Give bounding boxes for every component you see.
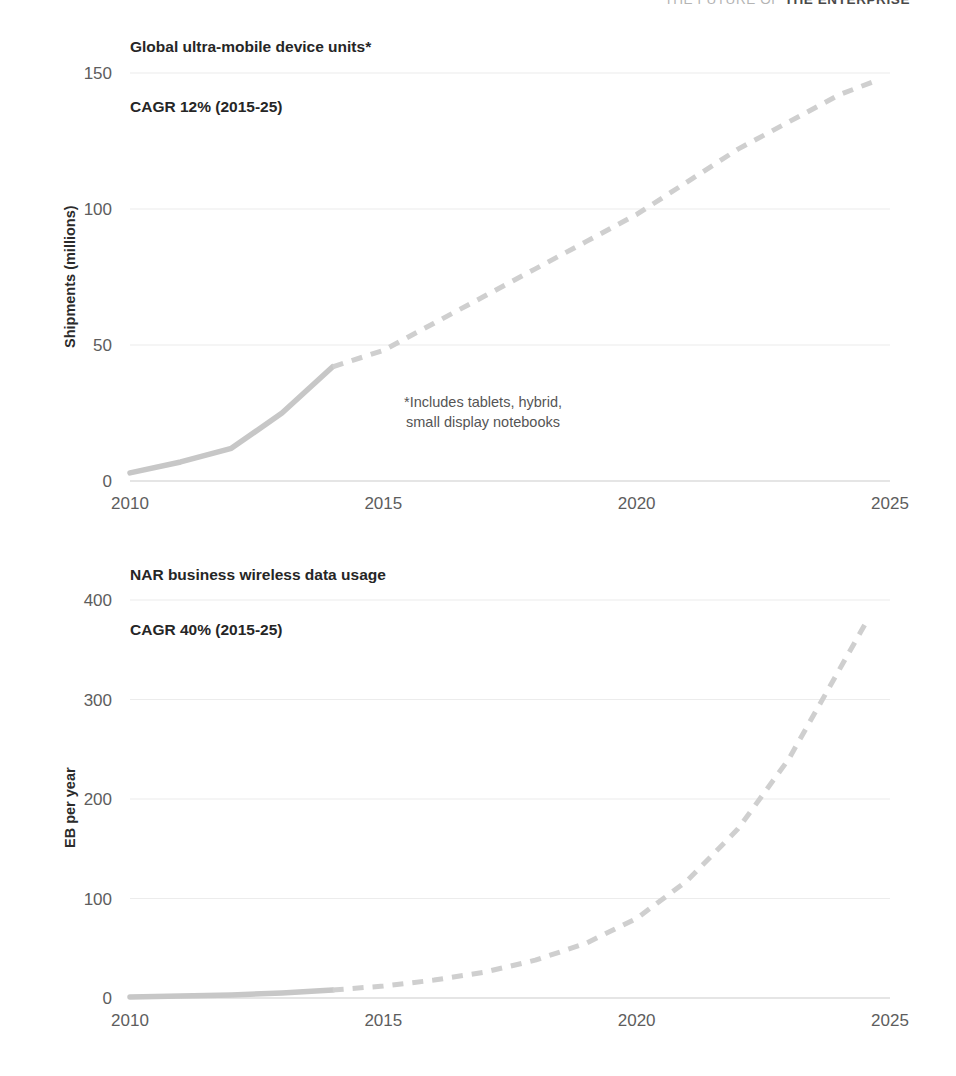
page-header-prefix: THE FUTURE OF <box>664 0 784 7</box>
chart-2-cagr-annotation: CAGR 40% (2015-25) <box>130 621 282 639</box>
x-tick-label-2020: 2020 <box>618 494 656 513</box>
y-tick-label-0: 0 <box>103 472 112 491</box>
y-tick-label-50: 50 <box>93 336 112 355</box>
chart-2-y-axis-label: EB per year <box>62 767 78 848</box>
series-line-actual <box>130 367 333 473</box>
y-tick-label-0: 0 <box>103 989 112 1008</box>
series-line-forecast <box>333 625 865 990</box>
series-line-actual <box>130 990 333 997</box>
x-tick-label-2015: 2015 <box>364 1011 402 1030</box>
y-tick-label-200: 200 <box>84 790 112 809</box>
x-tick-label-2010: 2010 <box>111 1011 149 1030</box>
x-tick-label-2020: 2020 <box>618 1011 656 1030</box>
y-tick-label-400: 400 <box>84 591 112 610</box>
chart-1-cagr-annotation: CAGR 12% (2015-25) <box>130 98 282 116</box>
chart-1-title: Global ultra-mobile device units* <box>130 38 371 56</box>
page-header-strong: THE ENTERPRISE <box>785 0 910 7</box>
series-line-forecast <box>333 81 875 367</box>
x-tick-label-2015: 2015 <box>364 494 402 513</box>
chart-1-footnote: *Includes tablets, hybrid, small display… <box>378 393 588 432</box>
y-tick-label-150: 150 <box>84 64 112 83</box>
y-tick-label-100: 100 <box>84 200 112 219</box>
x-tick-label-2010: 2010 <box>111 494 149 513</box>
y-tick-label-100: 100 <box>84 890 112 909</box>
chart-1-y-axis-label: Shipments (millions) <box>62 205 78 348</box>
page-header: THE FUTURE OF THE ENTERPRISE <box>664 0 910 7</box>
chart-ultra-mobile-device-units: 0501001502010201520202025 Global ultra-m… <box>0 28 956 528</box>
chart-nar-business-wireless-data-usage: 01002003004002010201520202025 NAR busine… <box>0 548 956 1058</box>
x-tick-label-2025: 2025 <box>871 494 909 513</box>
y-tick-label-300: 300 <box>84 691 112 710</box>
chart-2-title: NAR business wireless data usage <box>130 566 386 584</box>
x-tick-label-2025: 2025 <box>871 1011 909 1030</box>
